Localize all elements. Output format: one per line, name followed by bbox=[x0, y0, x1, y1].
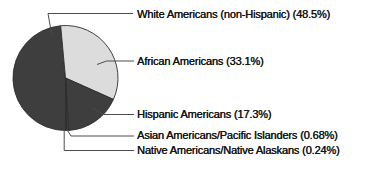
label-asian-americans: Asian Americans/Pacific Islanders (0.68%… bbox=[137, 128, 338, 143]
label-hispanic-americans: Hispanic Americans (17.3%) bbox=[137, 107, 271, 122]
leader-line-native-americans bbox=[64, 130, 134, 151]
pie-slices bbox=[13, 25, 118, 130]
pie-figure: White Americans (non-Hispanic) (48.5%) A… bbox=[0, 0, 366, 176]
label-native-americans: Native Americans/Native Alaskans (0.24%) bbox=[137, 143, 339, 158]
label-african-americans: African Americans (33.1%) bbox=[137, 54, 263, 69]
leader-line-asian-americans bbox=[67, 130, 134, 137]
label-white-americans: White Americans (non-Hispanic) (48.5%) bbox=[137, 7, 330, 22]
pie-slice-white-americans-non-hispanic- bbox=[13, 26, 66, 131]
